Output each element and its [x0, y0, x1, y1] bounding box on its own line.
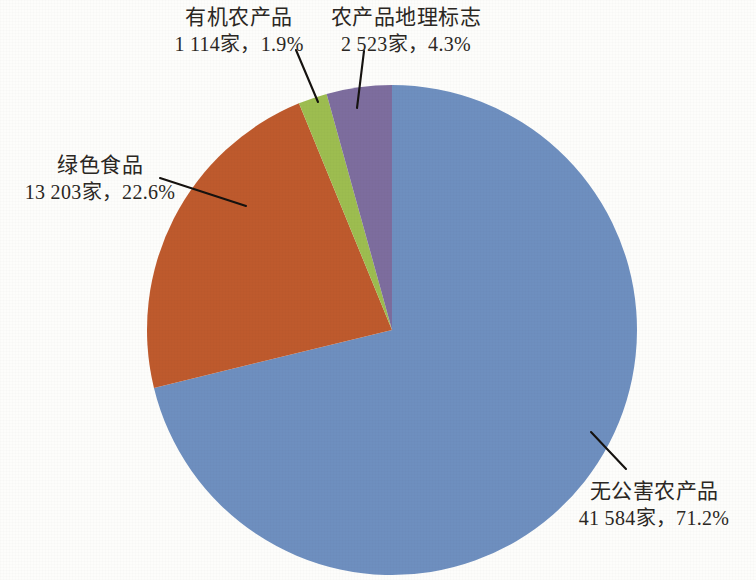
slice-label-organic-value: 1 114家，1.9% [166, 31, 312, 57]
slice-label-geo-indication-name: 农产品地理标志 [316, 4, 496, 31]
slice-label-organic: 有机农产品 1 114家，1.9% [166, 4, 312, 57]
slice-label-organic-name: 有机农产品 [166, 4, 312, 31]
slice-label-green-food: 绿色食品 13 203家，22.6% [8, 152, 192, 205]
slice-label-pollution-free-name: 无公害农产品 [556, 478, 752, 505]
leader-line-geo-indication [357, 51, 364, 108]
slice-label-geo-indication: 农产品地理标志 2 523家，4.3% [316, 4, 496, 57]
slice-label-geo-indication-value: 2 523家，4.3% [316, 31, 496, 57]
slice-label-pollution-free-value: 41 584家，71.2% [556, 505, 752, 531]
slice-label-green-food-name: 绿色食品 [8, 152, 192, 179]
leader-line-organic [296, 50, 318, 102]
leader-line-pollution-free [591, 432, 626, 469]
pie-chart-figure: 有机农产品 1 114家，1.9% 农产品地理标志 2 523家，4.3% 绿色… [0, 0, 756, 580]
slice-label-green-food-value: 13 203家，22.6% [8, 179, 192, 205]
slice-label-pollution-free: 无公害农产品 41 584家，71.2% [556, 478, 752, 531]
